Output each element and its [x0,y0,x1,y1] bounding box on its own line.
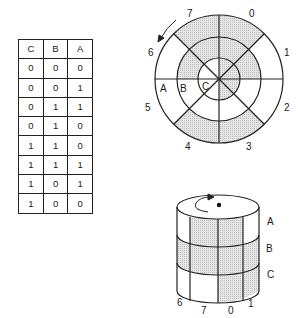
sector-label-1: 1 [284,47,290,58]
diagram-canvas: 0 1 2 3 4 5 6 7 A B C [0,0,298,318]
sector-label-0: 0 [249,8,255,19]
cyl-sector-label-6: 6 [177,297,183,308]
cylinder-top [177,195,259,219]
ring-label-c: C [202,81,209,92]
disk-rotation-arrow-icon [158,20,176,42]
sector-label-7: 7 [187,8,193,19]
ring-label-b: B [180,83,187,94]
cyl-sector-label-1: 1 [248,298,254,309]
band-label-a: A [267,216,274,227]
band-label-b: B [266,243,273,254]
sector-label-3: 3 [246,141,252,152]
gray-code-cylinder: A B C 6 7 0 1 [177,194,274,316]
cyl-sector-label-7: 7 [201,305,207,316]
gray-code-disk: 0 1 2 3 4 5 6 7 A B C [145,8,290,152]
sector-label-5: 5 [145,102,151,113]
cyl-sector-label-0: 0 [228,305,234,316]
band-a-shading [190,217,243,247]
band-label-c: C [267,269,274,280]
sector-label-6: 6 [148,47,154,58]
cylinder-axis-dot [217,203,221,207]
sector-label-4: 4 [185,141,191,152]
sector-label-2: 2 [284,102,290,113]
ring-label-a: A [160,83,167,94]
